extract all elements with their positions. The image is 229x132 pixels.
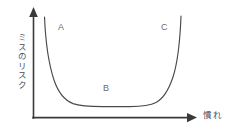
region-label-a: A <box>58 23 64 32</box>
region-label-b: B <box>103 84 109 93</box>
chart-plot-area <box>0 0 229 132</box>
x-axis-label: 慣れ <box>203 111 222 120</box>
y-axis-label: ミスのリスク <box>11 33 25 90</box>
chart-canvas: A B C ミスのリスク 慣れ <box>0 0 229 132</box>
x-axis-arrowhead <box>187 113 197 122</box>
y-axis-arrowhead <box>29 7 38 17</box>
region-label-c: C <box>161 23 168 32</box>
